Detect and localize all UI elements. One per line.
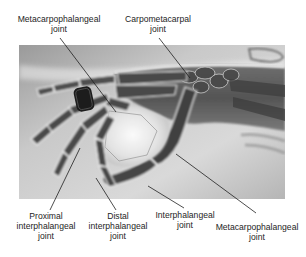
label-proximal-interphalangeal: Proximal interphalangeal joint <box>12 211 80 241</box>
label-line: joint <box>212 232 302 242</box>
label-line: joint <box>14 24 104 34</box>
label-line: Distal <box>84 211 152 221</box>
label-line: Proximal <box>12 211 80 221</box>
label-line: joint <box>84 231 152 241</box>
label-metacarpophalangeal-top: Metacarpophalangeal joint <box>14 14 104 34</box>
label-carpometacarpal: Carpometacarpal joint <box>118 14 198 34</box>
label-line: joint <box>152 220 218 230</box>
label-line: interphalangeal <box>84 221 152 231</box>
label-line: joint <box>118 24 198 34</box>
radiograph-image <box>19 45 285 199</box>
label-line: Metacarpophalangeal <box>14 14 104 24</box>
label-line: joint <box>12 231 80 241</box>
label-line: Interphalangeal <box>152 210 218 220</box>
label-distal-interphalangeal: Distal interphalangeal joint <box>84 211 152 241</box>
label-line: Metacarpophalangeal <box>212 222 302 232</box>
label-line: Carpometacarpal <box>118 14 198 24</box>
xray-illustration <box>19 45 285 199</box>
label-interphalangeal: Interphalangeal joint <box>152 210 218 230</box>
label-line: interphalangeal <box>12 221 80 231</box>
hand-xray-figure: Metacarpophalangeal joint Carpometacarpa… <box>0 0 306 257</box>
label-metacarpophalangeal-bottom: Metacarpophalangeal joint <box>212 222 302 242</box>
